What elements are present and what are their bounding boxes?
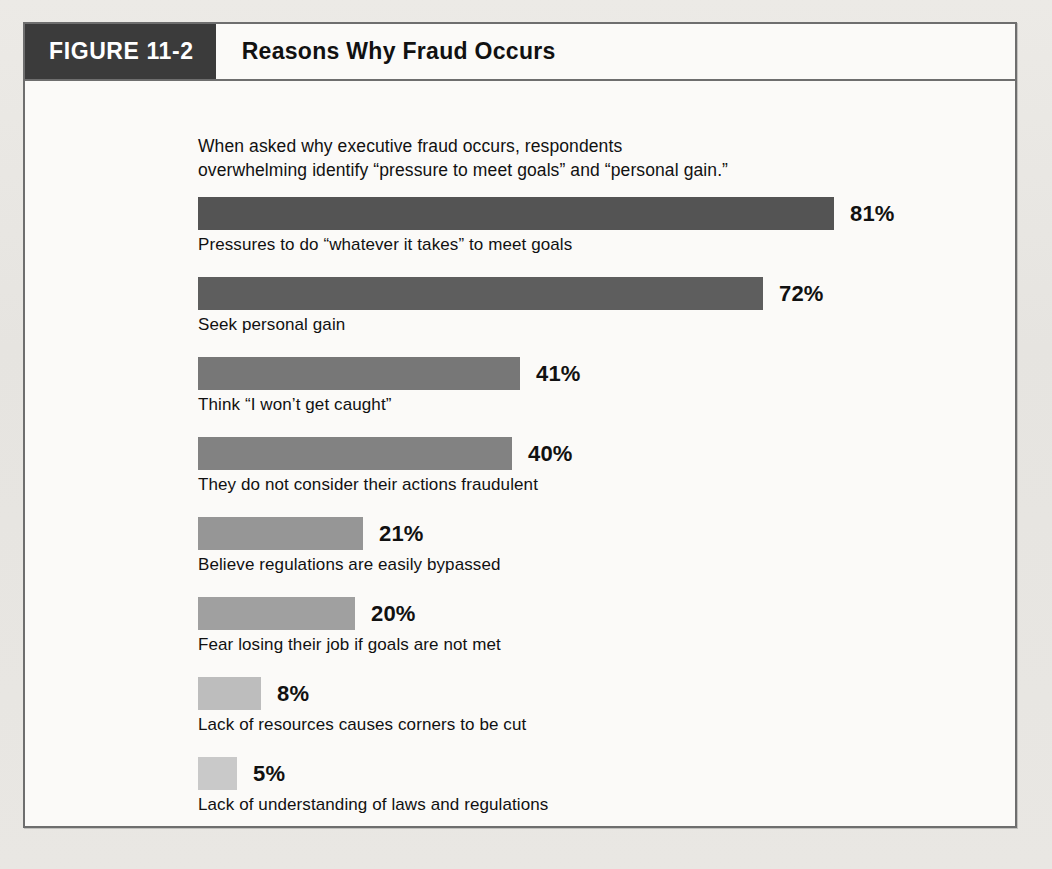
bar-row: 72%Seek personal gain: [198, 277, 995, 357]
figure-header: FIGURE 11-2 Reasons Why Fraud Occurs: [25, 24, 1015, 79]
bar-row: 5%Lack of understanding of laws and regu…: [198, 757, 995, 837]
bar-line: 41%: [198, 357, 995, 390]
chart-body: When asked why executive fraud occurs, r…: [25, 81, 1015, 826]
bar-fill: [198, 357, 520, 390]
chart-subtitle: When asked why executive fraud occurs, r…: [198, 134, 728, 182]
bar-chart: 81%Pressures to do “whatever it takes” t…: [198, 197, 995, 837]
bar-category-label: Believe regulations are easily bypassed: [198, 555, 995, 575]
bar-row: 21%Believe regulations are easily bypass…: [198, 517, 995, 597]
bar-line: 72%: [198, 277, 995, 310]
bar-value-label: 20%: [371, 601, 416, 627]
bar-line: 5%: [198, 757, 995, 790]
bar-fill: [198, 517, 363, 550]
bar-line: 40%: [198, 437, 995, 470]
bar-category-label: Think “I won’t get caught”: [198, 395, 995, 415]
bar-row: 81%Pressures to do “whatever it takes” t…: [198, 197, 995, 277]
bar-category-label: They do not consider their actions fraud…: [198, 475, 995, 495]
bar-line: 20%: [198, 597, 995, 630]
bar-fill: [198, 757, 237, 790]
bar-value-label: 81%: [850, 201, 895, 227]
bar-fill: [198, 437, 512, 470]
bar-category-label: Seek personal gain: [198, 315, 995, 335]
figure-title: Reasons Why Fraud Occurs: [216, 24, 1015, 79]
bar-row: 20%Fear losing their job if goals are no…: [198, 597, 995, 677]
bar-row: 8%Lack of resources causes corners to be…: [198, 677, 995, 757]
bar-line: 21%: [198, 517, 995, 550]
bar-value-label: 8%: [277, 681, 309, 707]
figure-container: FIGURE 11-2 Reasons Why Fraud Occurs Whe…: [23, 22, 1017, 828]
bar-line: 8%: [198, 677, 995, 710]
bar-value-label: 21%: [379, 521, 424, 547]
bar-category-label: Lack of resources causes corners to be c…: [198, 715, 995, 735]
bar-category-label: Fear losing their job if goals are not m…: [198, 635, 995, 655]
bar-row: 40%They do not consider their actions fr…: [198, 437, 995, 517]
bar-value-label: 5%: [253, 761, 285, 787]
bar-category-label: Pressures to do “whatever it takes” to m…: [198, 235, 995, 255]
bar-fill: [198, 277, 763, 310]
bar-fill: [198, 597, 355, 630]
bar-fill: [198, 197, 834, 230]
bar-line: 81%: [198, 197, 995, 230]
bar-value-label: 40%: [528, 441, 573, 467]
bar-value-label: 41%: [536, 361, 581, 387]
bar-value-label: 72%: [779, 281, 824, 307]
figure-number-badge: FIGURE 11-2: [25, 24, 216, 79]
bar-row: 41%Think “I won’t get caught”: [198, 357, 995, 437]
bar-fill: [198, 677, 261, 710]
bar-category-label: Lack of understanding of laws and regula…: [198, 795, 995, 815]
